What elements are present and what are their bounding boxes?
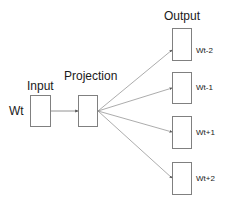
input-box xyxy=(31,96,51,127)
projection-layer-label: Projection xyxy=(64,70,117,82)
diagram-canvas xyxy=(0,0,228,205)
output-layer-label: Output xyxy=(164,10,200,22)
output-label-wt+2: Wt+2 xyxy=(196,175,215,183)
output-label-wt+1: Wt+1 xyxy=(196,129,215,137)
projection-box xyxy=(79,96,98,127)
output-box-wt-1 xyxy=(173,73,192,104)
output-box-wt+2 xyxy=(173,163,192,195)
output-box-wt+1 xyxy=(173,117,192,149)
input-layer-label: Input xyxy=(27,80,54,92)
output-label-wt-1: Wt-1 xyxy=(196,84,213,92)
arrow-projection-to-wt-1 xyxy=(98,88,172,111)
input-word-label: Wt xyxy=(9,105,24,117)
arrow-projection-to-wt+2 xyxy=(98,111,172,178)
output-box-wt-2 xyxy=(173,29,192,61)
output-label-wt-2: Wt-2 xyxy=(196,47,213,55)
